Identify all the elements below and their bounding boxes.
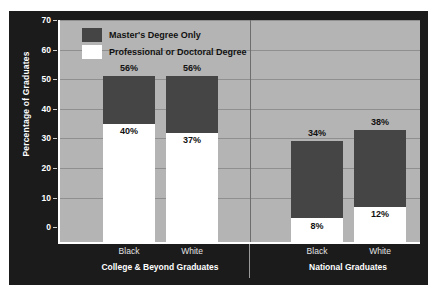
group-divider-footer	[249, 244, 250, 278]
category-label-national-white: White	[369, 246, 391, 256]
chart-footer: Black White Black White College & Beyond…	[9, 244, 428, 285]
y-tick-50: 50	[42, 74, 51, 84]
legend-swatch-professional	[82, 45, 102, 59]
bar-bottom-label: 40%	[120, 126, 138, 136]
category-label-national-black: Black	[307, 246, 328, 256]
gridline-70	[60, 20, 420, 21]
y-tick-30: 30	[42, 133, 51, 143]
y-tick-40: 40	[42, 104, 51, 114]
bar-national-white[interactable]: 38% 12%	[354, 130, 406, 242]
plot-area: Master's Degree Only Professional or Doc…	[58, 20, 420, 244]
y-tick-70: 70	[42, 15, 51, 25]
group-label-college: College & Beyond Graduates	[101, 262, 218, 272]
bar-bottom-label: 12%	[371, 209, 389, 219]
category-label-college-white: White	[181, 246, 203, 256]
bar-total-label: 34%	[308, 128, 326, 138]
bar-bottom-label: 37%	[183, 135, 201, 145]
bar-segment-professional	[166, 133, 218, 243]
y-tick-10: 10	[42, 193, 51, 203]
bar-total-label: 38%	[371, 117, 389, 127]
y-tick-0: 0	[46, 222, 51, 232]
bar-bottom-label: 8%	[310, 221, 323, 231]
chart-legend: Master's Degree Only Professional or Doc…	[82, 27, 247, 61]
bar-national-black[interactable]: 34% 8%	[291, 141, 343, 242]
category-label-college-black: Black	[119, 246, 140, 256]
bar-segment-professional	[103, 124, 155, 242]
y-tick-60: 60	[42, 45, 51, 55]
bar-total-label: 56%	[120, 63, 138, 73]
y-tick-20: 20	[42, 163, 51, 173]
legend-item-professional: Professional or Doctoral Degree	[82, 44, 247, 59]
group-divider	[250, 20, 251, 242]
bar-college-white[interactable]: 56% 37%	[166, 76, 218, 242]
legend-label-masters: Master's Degree Only	[109, 30, 201, 40]
legend-item-masters: Master's Degree Only	[82, 27, 247, 42]
legend-label-professional: Professional or Doctoral Degree	[109, 47, 247, 57]
group-label-national: National Graduates	[309, 262, 387, 272]
bar-total-label: 56%	[183, 63, 201, 73]
bar-college-black[interactable]: 56% 40%	[103, 76, 155, 242]
chart-figure: Percentage of Graduates 70 60 50 40 30 2…	[9, 11, 428, 285]
legend-swatch-masters	[82, 28, 102, 42]
